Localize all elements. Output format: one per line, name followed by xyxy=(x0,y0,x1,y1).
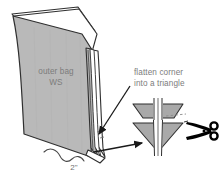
outer-bag-label: outer bag WS xyxy=(25,67,87,88)
diagram-canvas xyxy=(0,0,223,183)
arrow-to-corner xyxy=(99,86,130,134)
sewing-diagram-illustration: outer bag WS flatten corner into a trian… xyxy=(0,0,223,183)
measurement-label: 2" xyxy=(62,163,86,174)
flatten-corner-label: flatten corner into a triangle xyxy=(134,68,214,89)
scissors-icon xyxy=(184,121,218,140)
